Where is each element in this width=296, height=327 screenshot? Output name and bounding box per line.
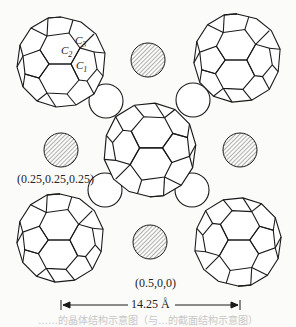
scale-bar-label: 14.25 Å [131,297,170,312]
atom-label-c1: C1 [76,59,87,74]
tetrahedral-site-label: (0.25,0.25,0.25) [17,172,94,187]
figure-caption: ……的晶体结构示意图（与…的截面结构示意图） [0,312,296,327]
atom-label-c2: C2 [61,44,72,59]
octahedral-site-label: (0.5,0,0) [135,276,176,291]
atom-label-c3: C3 [75,34,86,49]
